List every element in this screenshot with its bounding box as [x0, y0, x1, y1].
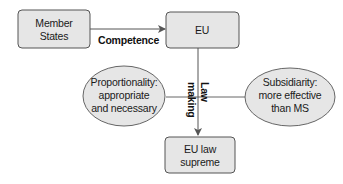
- proportionality-line1: Proportionality:: [91, 76, 158, 88]
- member-states-line2: States: [40, 30, 69, 42]
- diagram-canvas: Competence Law making Member States EU P…: [0, 0, 343, 184]
- edge-competence: Competence: [90, 29, 165, 46]
- subsidiarity-line1: Subsidiarity:: [263, 76, 318, 88]
- node-eu: EU: [166, 12, 239, 48]
- eu-law-supreme-line1: EU law: [184, 143, 217, 155]
- member-states-line1: Member: [35, 17, 73, 29]
- member-states-box: [18, 10, 90, 48]
- eu-law-supreme-line2: supreme: [180, 156, 220, 168]
- node-proportionality: Proportionality: appropriate and necessa…: [83, 66, 165, 126]
- node-member-states: Member States: [18, 10, 90, 48]
- law-making-label-line1: Law: [199, 82, 211, 103]
- competence-label: Competence: [98, 34, 159, 46]
- edge-law-making: Law making: [186, 48, 211, 135]
- proportionality-line2: appropriate: [99, 89, 150, 101]
- eu-label: EU: [195, 24, 209, 36]
- proportionality-line3: and necessary: [91, 102, 158, 114]
- subsidiarity-line3: than MS: [271, 102, 309, 114]
- node-subsidiarity: Subsidiarity: more effective than MS: [245, 68, 335, 126]
- subsidiarity-line2: more effective: [259, 89, 322, 101]
- node-eu-law-supreme: EU law supreme: [165, 137, 235, 173]
- law-making-label-line2: making: [186, 82, 198, 118]
